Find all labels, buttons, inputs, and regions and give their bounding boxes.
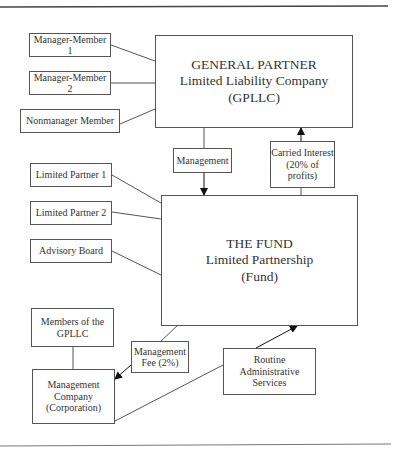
management-company-line-3: (Corporation) [46,402,101,414]
management-company-box: Management Company (Corporation) [32,369,115,424]
connector-mm1-gp [111,45,155,61]
management-company-line-2: Company [54,391,93,403]
bottom-rule [0,444,391,446]
manager-member-2-box: Manager-Member 2 [29,71,111,95]
routine-services-line-1: Routine [254,354,286,366]
connector-ab-fund [112,251,161,275]
connector-nm-gp [120,109,155,124]
manager-member-1-box: Manager-Member 1 [29,33,111,57]
carried-interest-box: Carried Interest (20% of profits) [270,141,335,188]
manager-member-1-label: Manager-Member 1 [30,34,110,57]
management-fee-line-1: Management [134,346,186,358]
carried-interest-line-2: (20% of [286,159,319,171]
connector-mgmtco-routine [115,365,223,421]
limited-partner-2-box: Limited Partner 2 [30,201,112,225]
management-fee-line-2: Fee (2%) [142,357,179,369]
members-of-gpllc-box: Members of the GPLLC [31,308,114,347]
management-box: Management [173,148,232,173]
general-partner-type: Limited Liability Company [180,73,328,89]
fund-abbr: (Fund) [241,269,278,285]
nonmanager-member-box: Nonmanager Member [20,109,120,133]
connector-lp1-fund [112,175,161,203]
fund-title: THE FUND [226,236,292,252]
connector-lp2-fund [112,212,161,219]
arrow-fee-mgmtco [115,365,131,379]
general-partner-box: GENERAL PARTNER Limited Liability Compan… [155,35,353,128]
management-fee-box: Management Fee (2%) [131,341,189,373]
members-of-gpllc-line-2: GPLLC [57,328,89,340]
manager-member-2-label: Manager-Member 2 [30,72,110,95]
fund-box: THE FUND Limited Partnership (Fund) [161,195,358,326]
advisory-board-label: Advisory Board [39,245,103,257]
limited-partner-1-label: Limited Partner 1 [36,169,107,181]
routine-services-line-2: Administrative Services [224,366,315,389]
arrow-routine-fund [256,326,297,348]
management-label: Management [176,155,228,167]
connector-fund-fee [161,325,178,341]
management-company-line-1: Management [47,379,99,391]
advisory-board-box: Advisory Board [30,239,112,263]
limited-partner-2-label: Limited Partner 2 [36,207,107,219]
general-partner-abbr: (GPLLC) [228,90,280,106]
routine-services-box: Routine Administrative Services [223,348,316,395]
top-rule [0,6,388,7]
nonmanager-member-label: Nonmanager Member [26,115,114,127]
limited-partner-1-box: Limited Partner 1 [30,163,112,187]
carried-interest-line-3: profits) [288,170,317,182]
carried-interest-line-1: Carried Interest [271,147,333,159]
members-of-gpllc-line-1: Members of the [41,316,104,328]
fund-type: Limited Partnership [206,252,314,268]
general-partner-title: GENERAL PARTNER [191,57,316,73]
